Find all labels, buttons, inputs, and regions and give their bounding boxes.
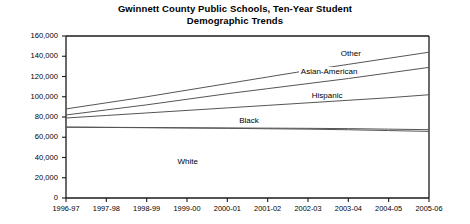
y-axis-tick-label: 160,000 [0,31,58,40]
y-axis-tick-label: 120,000 [0,72,58,81]
y-axis-tick-label: 80,000 [0,112,58,121]
series-label-black: Black [238,116,261,125]
x-axis-tick-label: 2000-01 [205,204,249,213]
x-axis-tick-label: 1996-97 [44,204,88,213]
plot-area [0,0,470,224]
y-axis-tick-label: 100,000 [0,92,58,101]
series-line-other [66,52,429,109]
x-axis-tick-label: 1997-98 [84,204,128,213]
y-axis-tick-label: 40,000 [0,153,58,162]
x-axis-tick-label: 2002-03 [286,204,330,213]
y-axis-tick-label: 60,000 [0,132,58,141]
series-line-hispanic [66,95,429,118]
x-axis-tick-label: 2005-06 [407,204,451,213]
series-label-white: White [176,157,199,166]
series-line-asian-american [66,67,429,115]
y-axis-tick-label: 140,000 [0,51,58,60]
series-label-asian-american: Asian-American [299,67,358,76]
x-axis-tick-label: 1998-99 [125,204,169,213]
x-axis-tick-label: 2001-02 [246,204,290,213]
chart-container: Gwinnett County Public Schools, Ten-Year… [0,0,470,224]
series-label-other: Other [339,49,362,58]
x-axis-tick-label: 2004-05 [367,204,411,213]
y-axis-tick-label: 0 [0,193,58,202]
x-axis-tick-label: 1999-00 [165,204,209,213]
x-axis-tick-label: 2003-04 [326,204,370,213]
y-axis-tick-label: 20,000 [0,173,58,182]
series-label-hispanic: Hispanic [310,91,344,100]
